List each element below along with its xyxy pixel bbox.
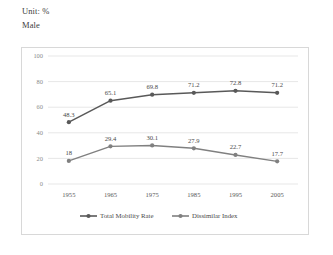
y-axis-tick-label: 100	[33, 52, 43, 59]
data-point-label: 71.2	[271, 81, 283, 88]
x-axis-tick-labels: 195519651975198519952005	[62, 191, 284, 198]
data-point-marker	[150, 93, 154, 97]
data-point-label: 18	[66, 149, 73, 156]
data-point-marker	[192, 91, 196, 95]
group-caption: Male	[22, 20, 40, 30]
chart-legend: Total Mobility RateDissimilar Index	[80, 212, 238, 219]
chart-plot-area: 020406080100 195519651975198519952005 48…	[21, 47, 309, 235]
y-axis-tick-labels: 020406080100	[33, 52, 43, 187]
data-point-marker	[275, 159, 279, 163]
x-axis-tick-label: 1975	[146, 191, 160, 198]
x-axis-tick-label: 1955	[62, 191, 76, 198]
legend-label: Total Mobility Rate	[100, 212, 154, 219]
data-point-marker	[233, 89, 237, 93]
data-point-marker	[108, 144, 112, 148]
data-point-marker	[108, 99, 112, 103]
data-point-label: 30.1	[146, 134, 158, 141]
y-axis-tick-label: 60	[37, 103, 43, 110]
data-point-marker	[192, 146, 196, 150]
y-axis-tick-label: 0	[40, 180, 43, 187]
legend-marker-swatch	[178, 214, 182, 218]
data-point-marker	[233, 153, 237, 157]
x-axis-tick-label: 2005	[271, 191, 285, 198]
data-point-label: 17.7	[271, 150, 283, 157]
series-lines-group	[69, 91, 277, 162]
data-point-marker	[67, 120, 71, 124]
gridlines-group	[48, 56, 298, 184]
data-point-label: 22.7	[230, 143, 242, 150]
data-point-label: 48.3	[63, 111, 75, 118]
chart-figure: Unit: % Male 020406080100 19551965197519…	[0, 0, 333, 255]
series-line	[69, 91, 277, 122]
line-chart-svg: 020406080100 195519651975198519952005 48…	[22, 48, 310, 236]
data-point-label: 69.8	[146, 83, 158, 90]
y-axis-tick-label: 40	[37, 129, 43, 136]
data-point-label: 71.2	[188, 81, 200, 88]
data-point-marker	[67, 159, 71, 163]
x-axis-tick-label: 1995	[229, 191, 243, 198]
y-axis-tick-label: 20	[37, 155, 43, 162]
data-point-label: 72.8	[230, 79, 242, 86]
data-point-marker	[275, 91, 279, 95]
legend-marker-swatch	[86, 214, 90, 218]
data-point-label: 29.4	[105, 135, 117, 142]
data-point-label: 27.9	[188, 137, 200, 144]
series-line	[69, 145, 277, 161]
legend-label: Dissimilar Index	[192, 212, 238, 219]
y-axis-tick-label: 80	[37, 78, 43, 85]
data-point-marker	[150, 143, 154, 147]
x-axis-tick-label: 1965	[104, 191, 118, 198]
series-markers-group	[67, 89, 280, 164]
unit-caption: Unit: %	[22, 6, 49, 16]
data-point-label: 65.1	[105, 89, 117, 96]
x-axis-tick-label: 1985	[187, 191, 201, 198]
